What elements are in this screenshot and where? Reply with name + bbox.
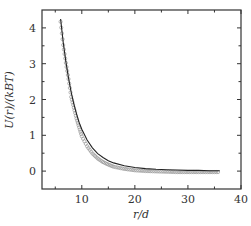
fit-line	[61, 19, 220, 171]
x-tick-label: 30	[181, 193, 195, 206]
y-tick-label: 3	[29, 58, 36, 71]
x-tick-label: 10	[75, 193, 89, 206]
plot-area	[59, 19, 220, 174]
y-tick-label: 1	[29, 129, 36, 142]
tick-labels: 1020304001234	[29, 22, 248, 206]
plot-frame	[42, 10, 241, 189]
x-axis-label: r/d	[133, 208, 149, 221]
y-tick-label: 2	[29, 94, 36, 107]
x-tick-label: 40	[234, 193, 248, 206]
y-tick-label: 4	[29, 22, 36, 35]
y-axis-label: U(r)/(kBT)	[3, 71, 16, 129]
chart: 1020304001234 r/d U(r)/(kBT)	[0, 0, 251, 226]
y-tick-label: 0	[29, 165, 36, 178]
data-points	[59, 20, 220, 174]
x-tick-label: 20	[128, 193, 142, 206]
axis-ticks	[42, 10, 241, 189]
